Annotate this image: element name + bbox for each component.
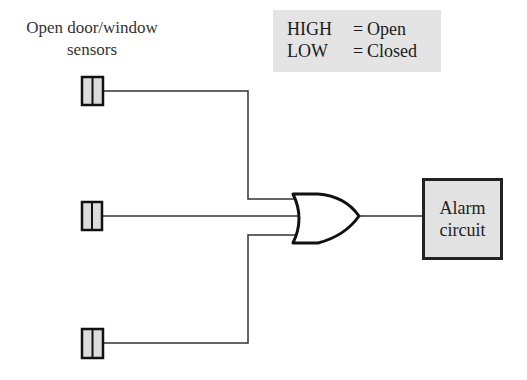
legend-equals: = [349, 18, 367, 40]
or-gate-icon [293, 194, 359, 243]
alarm-label-line2: circuit [440, 219, 486, 241]
diagram-canvas: Open door/window sensors HIGH = Open LOW… [0, 0, 527, 380]
logic-level-legend: HIGH = Open LOW = Closed [273, 10, 441, 72]
alarm-circuit-block: Alarm circuit [422, 178, 503, 260]
wire-sensor-3 [103, 235, 300, 343]
legend-equals: = [349, 40, 367, 62]
alarm-label-line1: Alarm [440, 197, 486, 219]
sensor-3-icon [82, 329, 103, 358]
sensors-label-line1: Open door/window [12, 17, 172, 39]
sensor-2-icon [82, 202, 102, 230]
wires [102, 91, 422, 343]
legend-value: Open [367, 18, 406, 40]
wire-sensor-1 [103, 91, 300, 199]
legend-key: HIGH [287, 18, 349, 40]
sensor-1-icon [82, 77, 103, 105]
legend-row-low: LOW = Closed [287, 40, 441, 62]
sensors-label-line2: sensors [12, 39, 172, 61]
sensors-label: Open door/window sensors [12, 17, 172, 61]
legend-row-high: HIGH = Open [287, 18, 441, 40]
legend-value: Closed [367, 40, 417, 62]
legend-key: LOW [287, 40, 349, 62]
